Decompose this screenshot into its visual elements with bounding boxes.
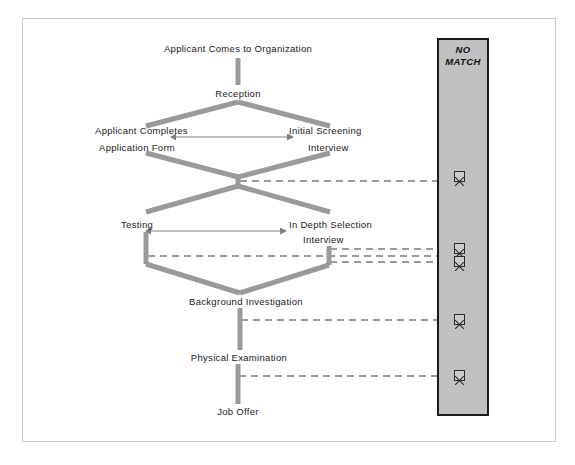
node-label-applicant-comes-to-organization: Applicant Comes to Organization bbox=[164, 43, 312, 55]
x-mark-icon bbox=[454, 370, 465, 381]
connector-reception-split-right bbox=[238, 102, 330, 126]
x-mark-icon bbox=[454, 256, 465, 267]
connector-indepth-to-background bbox=[240, 265, 329, 293]
connector-testing-to-background bbox=[146, 264, 240, 293]
node-label-reception: Reception bbox=[215, 88, 260, 100]
node-label-job-offer: Job Offer bbox=[217, 406, 259, 418]
node-label-testing: Testing bbox=[121, 219, 153, 231]
no-match-panel-title: NOMATCH bbox=[437, 44, 489, 68]
node-label-application-form: Application Form bbox=[99, 142, 175, 154]
no-match-panel bbox=[437, 38, 489, 416]
screenshot-canvas: NOMATCH Applicant Comes to Organization … bbox=[0, 0, 575, 465]
connector-waist-to-indepth bbox=[238, 186, 330, 212]
node-label-in-depth-selection: In Depth Selection bbox=[289, 219, 372, 231]
node-label-in-depth-selection-interview: Interview bbox=[303, 234, 344, 246]
node-label-applicant-completes: Applicant Completes bbox=[95, 125, 188, 137]
x-mark-icon bbox=[454, 314, 465, 325]
connector-screening-to-waist bbox=[238, 153, 330, 177]
node-label-initial-screening: Initial Screening bbox=[289, 125, 362, 137]
node-label-initial-screening-interview: Interview bbox=[308, 142, 349, 154]
node-label-physical-examination: Physical Examination bbox=[191, 352, 287, 364]
no-match-title-line2: MATCH bbox=[445, 56, 481, 67]
connector-waist-to-testing bbox=[146, 186, 238, 212]
node-label-background-investigation: Background Investigation bbox=[189, 296, 303, 308]
connector-reception-split bbox=[146, 102, 238, 126]
x-mark-icon bbox=[454, 171, 465, 182]
no-match-title-line1: NO bbox=[455, 44, 470, 55]
connector-application-to-waist bbox=[146, 153, 238, 177]
x-mark-icon bbox=[454, 243, 465, 254]
